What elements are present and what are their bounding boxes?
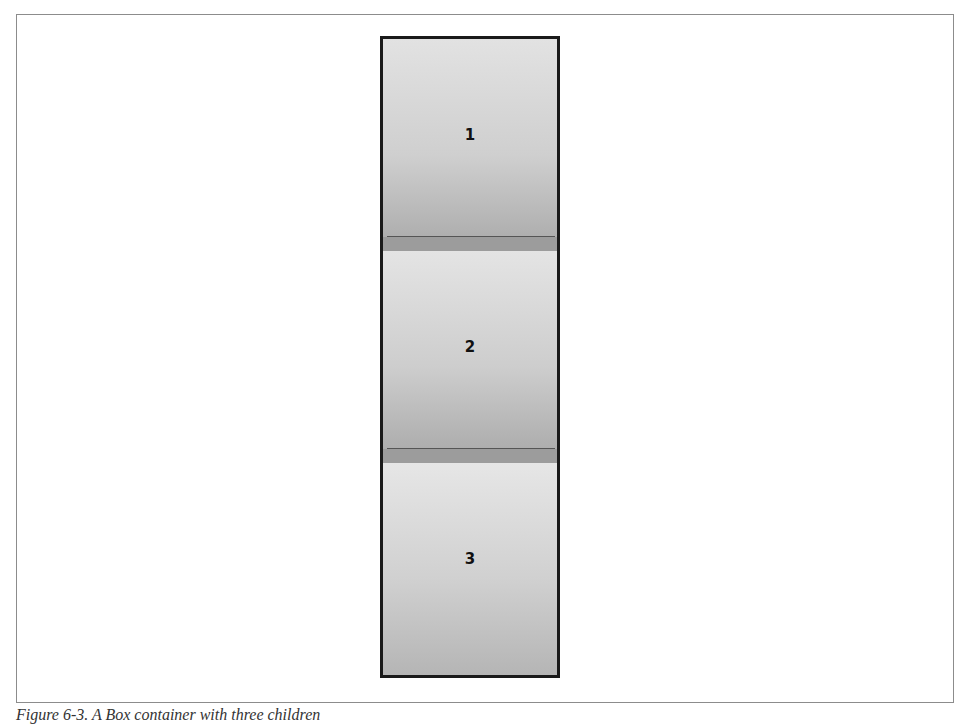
panel-label: 3	[465, 550, 475, 568]
box-child-panel-2[interactable]: 2	[383, 251, 557, 463]
panel-label: 2	[465, 338, 475, 356]
figure-caption: Figure 6-3. A Box container with three c…	[16, 706, 320, 724]
box-child-panel-3[interactable]: 3	[383, 463, 557, 675]
vertical-box-container: 1 2 3	[380, 36, 560, 678]
panel-label: 1	[465, 126, 475, 144]
box-child-panel-1[interactable]: 1	[383, 39, 557, 251]
